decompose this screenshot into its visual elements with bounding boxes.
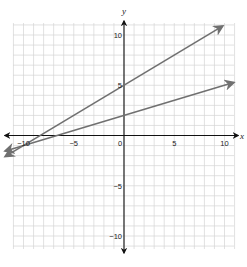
y-axis-label: y bbox=[121, 6, 126, 16]
x-tick-label: −5 bbox=[69, 139, 78, 148]
y-tick-label: 5 bbox=[118, 81, 122, 90]
y-tick-label: −5 bbox=[113, 182, 122, 191]
x-tick-label: 10 bbox=[220, 139, 228, 148]
x-tick-label: 5 bbox=[172, 139, 176, 148]
axes bbox=[5, 21, 238, 253]
plotted-lines bbox=[5, 26, 233, 156]
x-axis-label: x bbox=[239, 131, 244, 141]
y-tick-label: 10 bbox=[114, 31, 122, 40]
coordinate-plane: −10−50510105−5−10xy bbox=[0, 0, 247, 267]
x-tick-label: 0 bbox=[118, 139, 122, 148]
x-tick-label: −10 bbox=[17, 139, 30, 148]
y-tick-label: −10 bbox=[109, 232, 122, 241]
